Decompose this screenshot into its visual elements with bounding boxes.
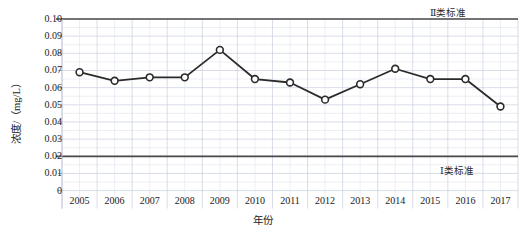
x-axis-tick-label: 2015: [410, 196, 450, 206]
x-axis-tick-label: 2016: [445, 196, 485, 206]
x-axis-tick-label: 2006: [95, 196, 135, 206]
class-1-standard-label: Ⅰ类标准: [440, 166, 474, 176]
x-axis-tick-labels: 2005200620072008200920102011201220132014…: [0, 0, 526, 244]
x-axis-tick-label: 2008: [165, 196, 205, 206]
x-axis-tick-label: 2017: [480, 196, 520, 206]
x-axis-tick-label: 2010: [235, 196, 275, 206]
y-axis-title: 浓度/（mg/L）: [8, 56, 24, 166]
x-axis-tick-label: 2012: [305, 196, 345, 206]
x-axis-tick-label: 2007: [130, 196, 170, 206]
x-axis-title: 年份: [0, 212, 526, 227]
x-axis-tick-label: 2014: [375, 196, 415, 206]
x-axis-tick-label: 2009: [200, 196, 240, 206]
x-axis-tick-label: 2011: [270, 196, 310, 206]
class-2-standard-label: Ⅱ类标准: [430, 8, 466, 18]
x-axis-tick-label: 2005: [60, 196, 100, 206]
x-axis-tick-label: 2013: [340, 196, 380, 206]
chart-figure: 0.100.090.080.070.060.050.040.030.020.01…: [0, 0, 526, 244]
